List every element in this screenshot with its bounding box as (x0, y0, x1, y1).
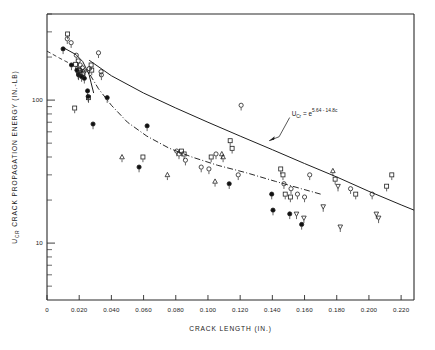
marker-filled-circle (105, 96, 109, 100)
marker-filled-circle (69, 63, 73, 67)
x-tick-label: 0.220 (393, 306, 410, 313)
x-tick-label: 0.160 (296, 306, 313, 313)
y-tick-label: 100 (32, 96, 43, 103)
x-tick-label: 0.140 (264, 306, 281, 313)
marker-filled-circle (85, 89, 89, 93)
figure-container: 00.0200.0400.0600.0800.1000.1200.1400.16… (0, 0, 435, 350)
x-tick-label: 0.060 (135, 306, 152, 313)
x-tick-label: 0 (45, 306, 49, 313)
x-tick-label: 0.080 (168, 306, 185, 313)
marker-filled-circle (137, 165, 141, 169)
canvas-background (0, 0, 435, 350)
x-axis-title: CRACK LENGTH (IN.) (189, 325, 272, 333)
y-tick-label: 10 (36, 239, 44, 246)
x-tick-label: 0.200 (361, 306, 378, 313)
x-tick-label: 0.020 (71, 306, 88, 313)
marker-filled-circle (288, 212, 292, 216)
x-tick-label: 0.120 (232, 306, 249, 313)
x-tick-label: 0.040 (103, 306, 120, 313)
marker-filled-circle (61, 47, 65, 51)
marker-filled-circle (227, 182, 231, 186)
marker-filled-circle (270, 192, 274, 196)
marker-filled-circle (145, 124, 149, 128)
x-tick-label: 0.180 (328, 306, 345, 313)
x-tick-label: 0.100 (200, 306, 217, 313)
marker-filled-circle (271, 208, 275, 212)
chart-canvas: 00.0200.0400.0600.0800.1000.1200.1400.16… (0, 0, 435, 350)
marker-filled-circle (300, 222, 304, 226)
marker-filled-circle (91, 122, 95, 126)
